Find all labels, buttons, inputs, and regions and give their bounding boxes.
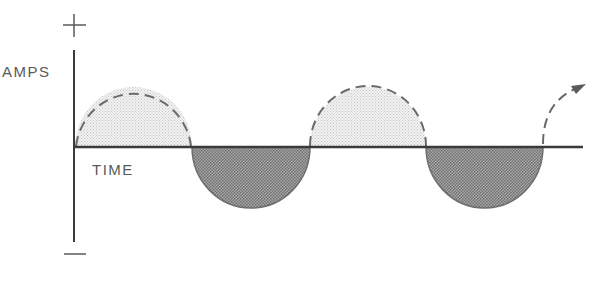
y-axis-label: AMPS [2,64,51,79]
x-axis-label: TIME [92,162,134,177]
positive-sign-icon [63,14,86,37]
arrowhead-icon [571,84,586,94]
positive-half-cycle-2 [310,87,426,147]
positive-half-cycles [75,86,426,147]
waveform-continuation-arrow [543,84,586,144]
negative-half-cycle-2 [426,147,543,208]
positive-half-cycle-1 [75,87,192,147]
ac-waveform-diagram [0,0,600,291]
negative-half-cycle-1 [192,147,310,208]
negative-half-cycles [192,147,543,208]
